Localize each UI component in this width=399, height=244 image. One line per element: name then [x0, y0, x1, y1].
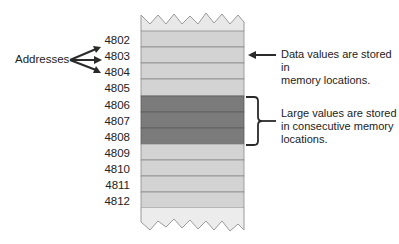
- address-label-4804: 4804: [96, 64, 130, 80]
- address-label-4806: 4806: [96, 97, 130, 113]
- memory-cell-4811: [141, 176, 244, 192]
- address-label-4811: 4811: [96, 177, 130, 193]
- memory-cell-4808: [141, 128, 244, 144]
- addresses-label: Addresses: [15, 53, 69, 66]
- memory-cell-4804: [141, 63, 244, 79]
- torn-bottom-edge: [141, 208, 244, 231]
- memory-cell-4812: [141, 192, 244, 208]
- large-values-note-line-3: locations.: [281, 133, 397, 146]
- memory-cell-4810: [141, 160, 244, 176]
- memory-cell-4807: [141, 112, 244, 128]
- memory-cell-4806: [141, 96, 244, 112]
- large-values-note-line-1: Large values are stored: [281, 107, 397, 120]
- memory-diagram: Addresses 4802 4803 4804 4805 4806 4807 …: [0, 0, 399, 244]
- memory-cell-4805: [141, 79, 244, 96]
- address-label-4807: 4807: [96, 113, 130, 129]
- address-label-4808: 4808: [96, 129, 130, 145]
- data-values-arrow-icon: [248, 51, 276, 59]
- large-values-note-line-2: in consecutive memory: [281, 120, 397, 133]
- address-label-4802: 4802: [96, 32, 130, 48]
- address-label-4803: 4803: [96, 48, 130, 64]
- data-values-note-line-1: Data values are stored in: [281, 48, 399, 74]
- torn-top-edge: [141, 13, 244, 31]
- memory-cell-4803: [141, 47, 244, 63]
- memory-cells: [141, 31, 244, 208]
- large-values-note: Large values are stored in consecutive m…: [281, 107, 397, 146]
- large-values-bracket-icon: [246, 97, 276, 145]
- data-values-note-line-2: memory locations.: [281, 74, 399, 87]
- address-label-4812: 4812: [96, 193, 130, 209]
- address-label-4805: 4805: [96, 80, 130, 96]
- address-label-4810: 4810: [96, 161, 130, 177]
- memory-cell-4809: [141, 144, 244, 160]
- memory-cell-4802: [141, 31, 244, 47]
- data-values-note: Data values are stored in memory locatio…: [281, 48, 399, 87]
- address-label-4809: 4809: [96, 145, 130, 161]
